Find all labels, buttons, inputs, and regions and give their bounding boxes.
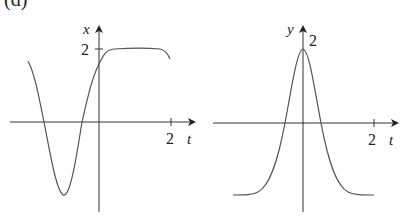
y-tick-label: 2 (309, 32, 317, 49)
figure: (d) x 2 2 t y 2 2 t (0, 0, 403, 217)
t-axis-label: t (389, 132, 394, 148)
t-tick-label: 2 (166, 130, 174, 147)
x-axis-label: x (82, 21, 90, 37)
t-tick-label: 2 (368, 131, 376, 148)
figure-label: (d) (4, 0, 27, 11)
right-plot: y 2 2 t (213, 21, 397, 212)
y-tick-label: 2 (81, 41, 89, 58)
t-axis-label: t (187, 131, 192, 147)
left-plot: x 2 2 t (10, 21, 194, 212)
y-axis-label: y (285, 21, 294, 37)
